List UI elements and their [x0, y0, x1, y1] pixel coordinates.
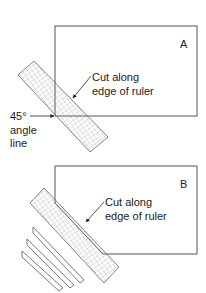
bias-strip-3	[22, 251, 63, 291]
callout-b-line1: Cut along	[105, 196, 152, 208]
diagram-canvas: A Cut along edge of ruler 45° angle line…	[0, 0, 206, 293]
panel-a: A Cut along edge of ruler 45° angle line	[10, 26, 197, 152]
panel-a-letter: A	[180, 38, 188, 50]
panel-b-letter: B	[180, 178, 187, 190]
callout-b-line2: edge of ruler	[105, 210, 167, 222]
callout-b-arrow	[86, 202, 104, 222]
callout-a-line1: Cut along	[92, 71, 139, 83]
bias-strip-2	[27, 239, 74, 288]
callout-a-line2: edge of ruler	[92, 85, 154, 97]
angle-label-line3: line	[10, 137, 27, 149]
angle-label-line1: 45°	[10, 110, 27, 122]
angle-label-line2: angle	[10, 124, 37, 136]
panel-b: B Cut along edge of ruler	[22, 166, 197, 291]
callout-a-arrow	[73, 76, 91, 98]
